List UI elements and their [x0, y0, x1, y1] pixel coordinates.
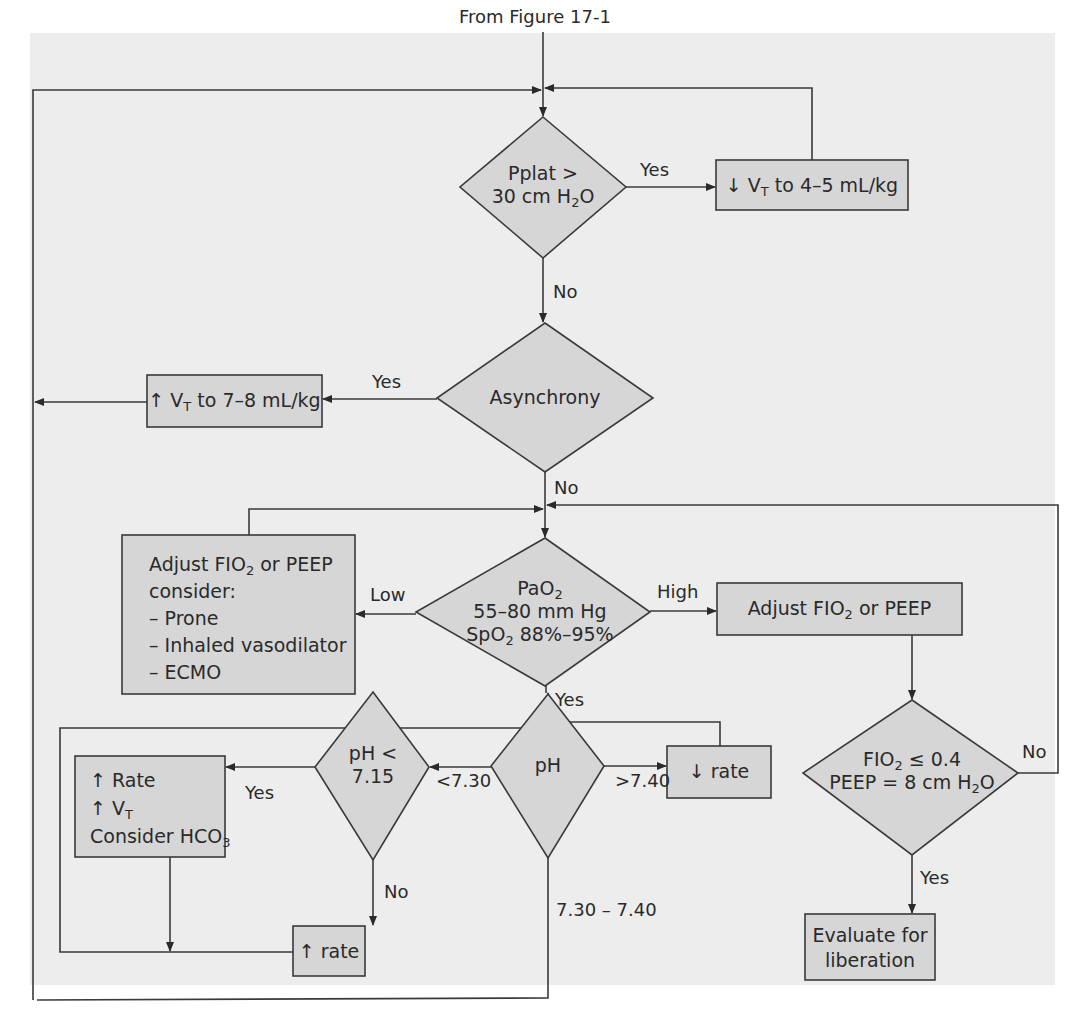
acidosis-line2: ↑ VT: [90, 794, 225, 822]
pao2-line3: SpO2 88%–95%: [425, 623, 655, 646]
pplat-line1: Pplat >: [463, 162, 623, 185]
pao2-high-label: High: [657, 582, 698, 602]
ph-normal-range-label: 7.30 – 7.40: [556, 900, 657, 920]
down-arrow-icon: ↓: [689, 760, 705, 782]
decrease-rate-label: ↓ rate: [667, 760, 771, 783]
acidosis-line1: ↑ Rate: [90, 766, 225, 794]
pao2-decision-label: PaO2 55–80 mm Hg SpO2 88%–95%: [425, 577, 655, 646]
pplat-line2: 30 cm H2O: [463, 185, 623, 208]
ph-decision-label: pH: [508, 754, 588, 777]
low-action-line2: consider:: [149, 578, 354, 605]
evaluate-line1: Evaluate for: [805, 923, 935, 948]
ph-low-line1: pH <: [333, 742, 413, 765]
ph-low-decision-label: pH < 7.15: [333, 742, 413, 788]
pplat-yes-label: Yes: [640, 160, 669, 180]
low-action-item: – ECMO: [149, 659, 354, 686]
low-action-line1: Adjust FIO2 or PEEP: [149, 551, 354, 578]
evaluate-label: Evaluate for liberation: [805, 923, 935, 973]
fio2-decision-label: FIO2 ≤ 0.4 PEEP = 8 cm H2O: [812, 748, 1012, 794]
acidosis-line3: Consider HCO3: [90, 822, 225, 850]
low-action-return-connector: [249, 509, 543, 535]
fio2-yes-label: Yes: [920, 868, 949, 888]
decrease-vt-return-connector: [545, 88, 812, 160]
evaluate-line2: liberation: [805, 948, 935, 973]
ph-high-range-label: >7.40: [615, 771, 670, 791]
low-action-label: Adjust FIO2 or PEEP consider: – Prone – …: [149, 551, 354, 686]
low-action-item: – Prone: [149, 605, 354, 632]
pao2-line2: 55–80 mm Hg: [425, 600, 655, 623]
down-arrow-icon: ↓: [726, 174, 742, 196]
ph-low-yes-label: Yes: [245, 783, 274, 803]
up-arrow-icon: ↑: [90, 797, 106, 819]
ph-low-line2: 7.15: [333, 765, 413, 788]
up-arrow-icon: ↑: [148, 389, 164, 411]
pao2-yes-label: Yes: [555, 690, 584, 710]
increase-vt-label: ↑ VT to 7–8 mL/kg: [147, 389, 322, 412]
ph-low-range-label: <7.30: [436, 771, 491, 791]
pplat-decision-label: Pplat > 30 cm H2O: [463, 162, 623, 208]
flowchart-canvas: [0, 0, 1082, 1018]
fio2-no-label: No: [1022, 742, 1046, 762]
up-arrow-icon: ↑: [90, 769, 106, 791]
acidosis-action-label: ↑ Rate ↑ VT Consider HCO3: [90, 766, 225, 850]
high-action-label: Adjust FIO2 or PEEP: [717, 597, 962, 620]
up-arrow-icon: ↑: [299, 940, 315, 962]
fio2-line1: FIO2 ≤ 0.4: [812, 748, 1012, 771]
asynchrony-yes-label: Yes: [372, 372, 401, 392]
pao2-line1: PaO2: [425, 577, 655, 600]
asynchrony-label: Asynchrony: [457, 386, 633, 409]
fio2-line2: PEEP = 8 cm H2O: [812, 771, 1012, 794]
asynchrony-no-label: No: [554, 478, 578, 498]
increase-rate-label: ↑ rate: [293, 940, 365, 963]
pao2-low-label: Low: [370, 585, 405, 605]
low-action-item: – Inhaled vasodilator: [149, 632, 354, 659]
pplat-no-label: No: [553, 282, 577, 302]
ph-low-no-label: No: [384, 882, 408, 902]
source-figure-label: From Figure 17-1: [459, 6, 611, 27]
decrease-vt-label: ↓ VT to 4–5 mL/kg: [716, 174, 908, 197]
